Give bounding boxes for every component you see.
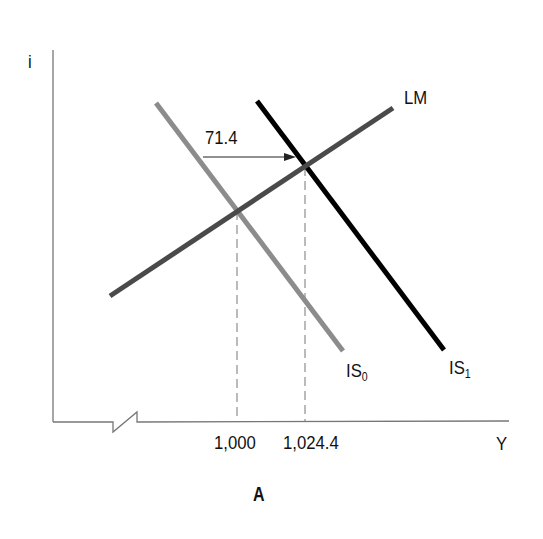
is1-label: IS1 [449,358,471,380]
is0-curve [156,103,343,351]
lm-curve [110,108,393,296]
x-tick-1000: 1,000 [214,433,256,452]
panel-label: A [253,484,265,504]
x-axis [53,412,509,432]
shift-value-label: 71.4 [205,128,238,147]
y-axis-label: i [28,52,32,71]
is0-label: IS0 [346,361,368,383]
x-axis-label: Y [496,434,507,453]
is-lm-diagram [0,0,543,539]
lm-label: LM [404,88,427,107]
x-tick-1024: 1,024.4 [283,433,339,452]
